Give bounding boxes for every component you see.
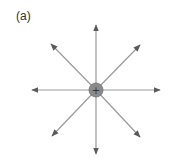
- field-line-up-right: [96, 45, 140, 90]
- field-line-up-left: [51, 44, 96, 90]
- positive-charge: +: [89, 83, 103, 97]
- plus-sign-icon: +: [92, 85, 100, 96]
- field-lines-diagram: +: [0, 0, 173, 159]
- field-line-down-right: [96, 90, 140, 137]
- field-line-down-left: [52, 90, 96, 136]
